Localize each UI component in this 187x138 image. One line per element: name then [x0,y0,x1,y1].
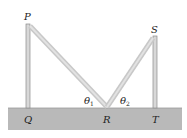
label-q: Q [24,114,32,125]
label-s: S [151,24,158,35]
label-theta1: θ1 [84,95,94,107]
label-p: P [23,11,31,22]
label-theta2: θ2 [120,95,130,107]
reflection-diagram: P S Q R T θ1 θ2 [0,0,187,138]
wire-pr-highlight [30,26,107,107]
label-r: R [102,114,111,125]
wire-rs-highlight [107,38,153,107]
pole-st [153,36,157,108]
pole-pq [26,24,30,108]
